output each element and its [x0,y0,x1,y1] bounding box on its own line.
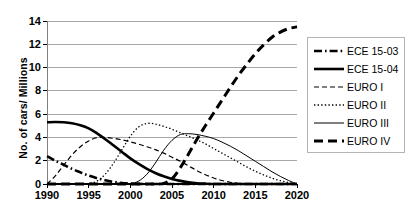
legend-item-label: EURO II [347,100,386,111]
legend-item-label: ECE 15-03 [347,46,398,57]
legend-swatch-long-dash-icon [312,135,345,147]
series-line-euro-ii [47,123,297,184]
legend-item-euro-iii[interactable]: EURO III [308,114,404,132]
legend-swatch-solid-icon [312,117,345,129]
series-line-euro-iii [47,134,297,184]
series-line-ece-15-04 [47,122,297,184]
line-chart: No. of cars/ Millions 02468101214 199019… [0,0,415,218]
legend-item-label: EURO IV [347,136,390,147]
legend-item-label: ECE 15-04 [347,64,398,75]
legend-item-euro-iv[interactable]: EURO IV [308,132,404,150]
legend-swatch-dotted-icon [312,99,345,111]
legend-swatch-dashed-icon [312,81,345,93]
legend-item-label: EURO III [347,118,389,129]
legend-item-ece-15-04[interactable]: ECE 15-04 [308,60,404,78]
legend-item-label: EURO I [347,82,383,93]
legend: ECE 15-03ECE 15-04EURO IEURO IIEURO IIIE… [307,37,405,153]
legend-swatch-solid-icon [312,63,345,75]
axis-lines [43,21,297,188]
legend-item-euro-ii[interactable]: EURO II [308,96,404,114]
legend-item-euro-i[interactable]: EURO I [308,78,404,96]
legend-item-ece-15-03[interactable]: ECE 15-03 [308,42,404,60]
legend-swatch-dash-dot-icon [312,45,345,57]
